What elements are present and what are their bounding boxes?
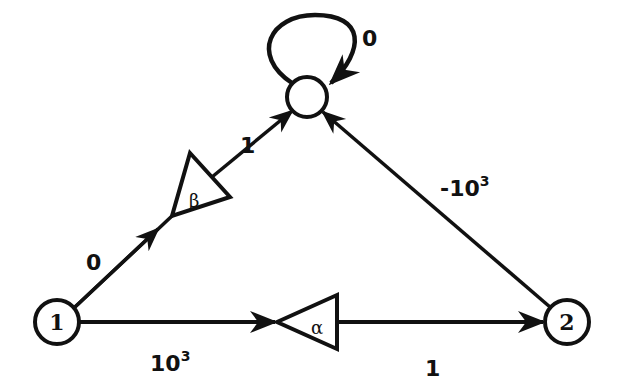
top-node (287, 77, 327, 117)
beta-amplifier: β (172, 153, 230, 216)
edge-node1-to-beta: 0 (75, 216, 172, 307)
beta-symbol: β (189, 190, 199, 211)
alpha-symbol: α (311, 317, 323, 338)
node-1-label: 1 (49, 309, 64, 335)
self-loop-label: 0 (362, 26, 377, 51)
node-2-label: 2 (559, 309, 574, 335)
edge-label-alpha-n2: 1 (425, 356, 440, 381)
edge-node1-to-alpha: 103 (79, 322, 275, 376)
self-loop-edge: 0 (269, 15, 377, 83)
signal-flow-diagram: 0 0 β 1 -103 103 α 1 1 (0, 0, 623, 390)
node-2: 2 (545, 300, 589, 344)
edge-node2-to-top: -103 (323, 112, 550, 307)
edge-label-beta-top: 1 (240, 133, 255, 158)
edge-label-n2-top: -103 (440, 173, 490, 201)
node-1: 1 (35, 300, 79, 344)
edge-label-n1-beta: 0 (86, 250, 101, 275)
edge-label-n1-alpha: 103 (150, 348, 190, 376)
edge-beta-to-top: 1 (212, 111, 292, 177)
alpha-amplifier: α (277, 295, 337, 349)
edge-alpha-to-node2: 1 (337, 322, 543, 381)
